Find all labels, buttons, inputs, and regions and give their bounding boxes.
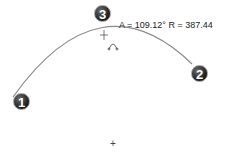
point-badge-3: 3 <box>94 5 111 22</box>
arc-entity[interactable] <box>13 26 192 97</box>
origin-icon: + <box>110 138 116 149</box>
arc-dimension-label: A = 109.12° R = 387.44 <box>119 20 213 30</box>
point-badge-1: 1 <box>13 93 30 110</box>
arc-midpoint-crosshair <box>100 30 108 40</box>
point-badge-2: 2 <box>191 65 208 82</box>
arc-relation-icon <box>108 44 118 50</box>
